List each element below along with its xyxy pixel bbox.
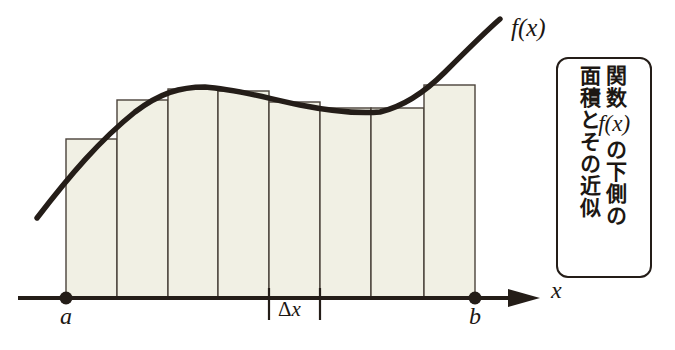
function-label: f(x)	[511, 14, 546, 42]
riemann-rect-8	[424, 85, 475, 298]
caption-box: 関数f(x)の下側の 面積とその近似	[556, 57, 652, 278]
figure-canvas: f(x) a b x Δx 関数f(x)の下側の 面積とその近似	[0, 0, 675, 350]
caption-column-left: 面積とその近似	[578, 65, 600, 271]
x-axis-label: x	[551, 277, 562, 304]
riemann-rect-2	[117, 100, 168, 298]
caption-right-math: f(x)	[598, 112, 630, 136]
caption-right-tail: の下側の	[603, 139, 627, 227]
riemann-rect-7	[371, 108, 424, 298]
caption-left-text: 面積とその近似	[577, 65, 601, 219]
caption-right-head: 関数	[603, 65, 627, 109]
point-b-label: b	[469, 303, 481, 330]
x-axis-arrowhead	[508, 289, 540, 307]
riemann-rect-5	[269, 102, 320, 298]
riemann-rect-4	[218, 91, 269, 298]
riemann-rect-3	[168, 89, 218, 298]
riemann-rect-1	[66, 139, 117, 298]
riemann-rect-6	[320, 108, 371, 298]
delta-x-variable: x	[292, 297, 301, 321]
delta-symbol: Δ	[278, 297, 292, 321]
caption-column-right: 関数f(x)の下側の	[600, 65, 630, 271]
point-a-label: a	[60, 303, 72, 330]
delta-x-label: Δx	[278, 297, 301, 322]
